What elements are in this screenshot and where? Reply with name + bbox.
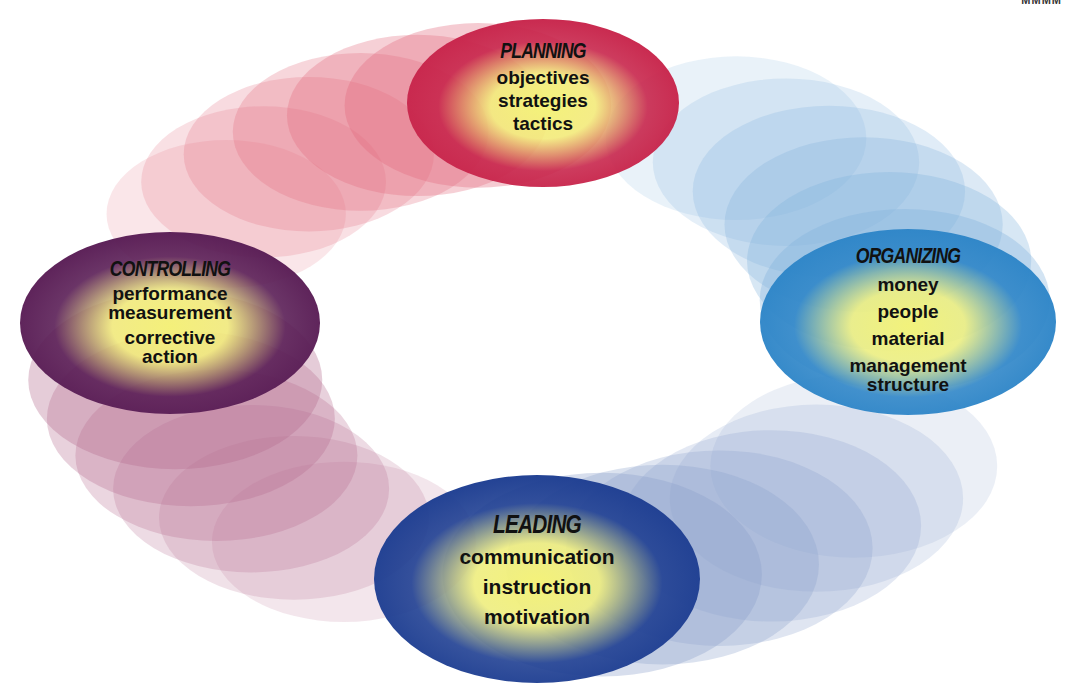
controlling-node: CONTROLLING performance measurement corr… xyxy=(60,256,280,366)
controlling-item: corrective action xyxy=(115,328,225,366)
organizing-item: management structure xyxy=(833,356,983,394)
leading-node: LEADING communication instruction motiva… xyxy=(417,508,657,632)
organizing-item: material xyxy=(808,325,1008,352)
organizing-title: ORGANIZING xyxy=(828,243,988,269)
controlling-title: CONTROLLING xyxy=(82,256,258,282)
controlling-item: performance measurement xyxy=(100,284,240,322)
leading-item: communication xyxy=(417,542,657,572)
corner-text: MMMM xyxy=(1021,0,1062,6)
leading-title: LEADING xyxy=(441,508,633,540)
planning-node: PLANNING objectives strategies tactics xyxy=(443,38,643,135)
organizing-node: ORGANIZING money people material managem… xyxy=(808,243,1008,394)
leading-item: instruction xyxy=(417,572,657,602)
planning-item: objectives xyxy=(443,66,643,89)
planning-title: PLANNING xyxy=(463,38,623,64)
planning-item: strategies xyxy=(443,89,643,112)
organizing-item: money xyxy=(808,271,1008,298)
management-cycle-diagram: MMMM PLANNING objectives strategies tact… xyxy=(0,0,1066,695)
organizing-item: people xyxy=(808,298,1008,325)
leading-item: motivation xyxy=(417,602,657,632)
planning-item: tactics xyxy=(443,112,643,135)
